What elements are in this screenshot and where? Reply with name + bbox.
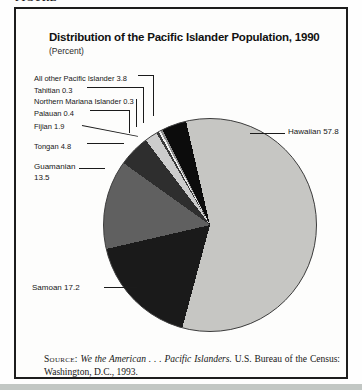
chart-subtitle: (Percent) (49, 46, 84, 56)
leader-hawaiian (250, 133, 285, 134)
source-citation: Source: We the American . . . Pacific Is… (44, 353, 340, 380)
source-label: Source: (44, 354, 78, 364)
leader-samoan (104, 287, 137, 288)
leader-guamanian (79, 168, 105, 169)
cropped-header-text: FIGURE 2.2. (15, 0, 75, 4)
leader-tahitian-h (87, 87, 143, 88)
scanned-figure-page: FIGURE 2.2. Distribution of the Pacific … (0, 0, 362, 390)
callout-northern-mariana: Northern Mariana Islander 0.3 (34, 97, 134, 106)
leader-palauan-v (129, 110, 130, 133)
scan-shadow-strip (0, 384, 362, 390)
leader-tahitian-v (143, 87, 144, 123)
pie-chart (103, 118, 317, 332)
callout-all-other: All other Pacific Islander 3.8 (34, 74, 127, 83)
leader-palauan-h (90, 110, 129, 111)
leader-all-other-h (138, 75, 153, 76)
figure-box: Distribution of the Pacific Islander Pop… (14, 7, 348, 379)
callout-palauan: Palauan 0.4 (34, 109, 74, 118)
callout-samoan: Samoan 17.2 (32, 283, 80, 292)
callout-guamanian: Guamanian 13.5 (34, 161, 88, 183)
callout-tongan: Tongan 4.8 (34, 142, 71, 151)
callout-hawaiian: Hawaiian 57.8 (288, 127, 339, 136)
leader-tongan (87, 143, 124, 144)
leader-northern-mariana-v (136, 99, 137, 127)
callout-tahitian: Tahitian 0.3 (34, 86, 72, 95)
chart-title: Distribution of the Pacific Islander Pop… (49, 31, 349, 43)
callout-fijian: Fijian 1.9 (34, 122, 64, 131)
source-title-italic: We the American . . . Pacific Islanders. (78, 354, 232, 364)
leader-all-other-v (153, 75, 154, 116)
